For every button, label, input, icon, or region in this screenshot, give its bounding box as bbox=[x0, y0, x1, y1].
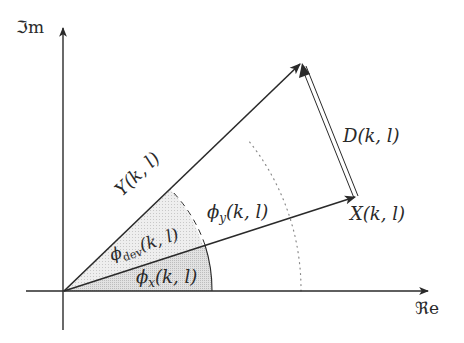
imag-axis-label: ℑm bbox=[16, 17, 44, 37]
vector-d-label: D(k, l) bbox=[342, 125, 400, 146]
complex-plane-diagram: ℑm ℜe Y(k, l) X(k, l) D(k, l) ϕx(k, l) ϕ… bbox=[0, 0, 464, 343]
vector-x-label: X(k, l) bbox=[348, 203, 405, 224]
vector-y-label: Y(k, l) bbox=[110, 147, 164, 200]
phi-x-label: ϕx(k, l) bbox=[136, 266, 197, 290]
real-axis-label: ℜe bbox=[415, 298, 439, 318]
phi-y-label: ϕy(k, l) bbox=[207, 201, 268, 225]
